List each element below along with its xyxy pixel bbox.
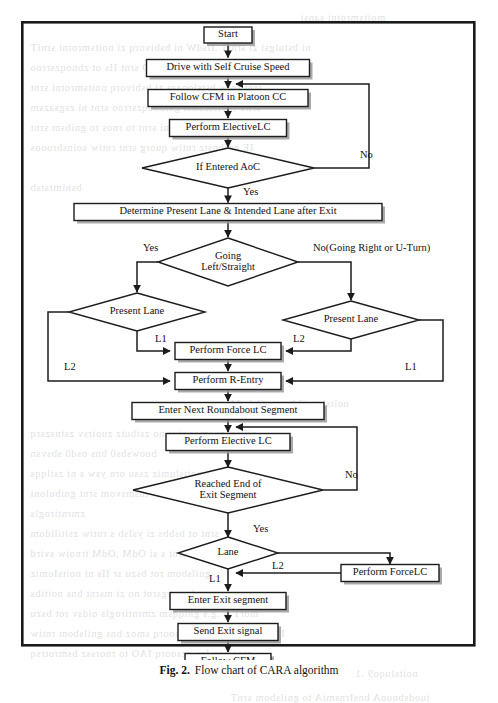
node-label: Lane <box>218 546 239 557</box>
node-label: Perform R-Entry <box>193 374 265 385</box>
figure-caption: Fig. 2.Flow chart of CARA algorithm <box>0 664 498 676</box>
node-label: Follow CFM in Platoon CC <box>170 91 287 102</box>
node-label: Enter Exit segment <box>188 594 269 605</box>
node-determine: Determine Present Lane & Intended Lane a… <box>74 204 385 224</box>
node-label: Perform Elective LC <box>184 435 271 446</box>
edge-lane-l2-to-forcelc2 <box>278 553 390 564</box>
edge-label: No <box>360 149 373 160</box>
node-label: Present Lane <box>110 305 165 316</box>
node-label: Present Lane <box>324 313 379 324</box>
node-label: Follow CFM <box>201 655 256 660</box>
node-laneleft: Present Lane <box>69 293 205 331</box>
edge-label: L2 <box>272 560 284 571</box>
node-cruise: Drive with Self Cruise Speed <box>147 60 313 80</box>
node-label: Going <box>215 250 242 261</box>
edge-label: L2 <box>293 333 305 344</box>
node-label: Perform Force LC <box>190 344 267 355</box>
node-followcfm2: Follow CFM <box>185 654 274 661</box>
edge-label: Yes <box>253 523 268 534</box>
node-electivelc1: Perform ElectiveLC <box>170 120 290 140</box>
node-electivelc2: Perform Elective LC <box>166 434 293 454</box>
node-group: StartDrive with Self Cruise SpeedFollow … <box>69 27 442 660</box>
node-going: GoingLeft/Straight <box>158 238 298 286</box>
edge-label: No <box>345 469 358 480</box>
node-label: Determine Present Lane & Intended Lane a… <box>119 205 336 216</box>
edge-label: No(Going Right or U-Turn) <box>313 242 431 254</box>
node-label: Enter Next Roundabout Segment <box>158 404 297 415</box>
node-forcelc1: Perform Force LC <box>175 343 284 363</box>
node-label: Perform ElectiveLC <box>186 121 271 132</box>
node-exitsignal: Send Exit signal <box>178 624 281 644</box>
node-followcfm: Follow CFM in Platoon CC <box>148 90 311 110</box>
edge-label: Yes <box>143 242 158 253</box>
node-label: Perform ForceLC <box>353 566 427 577</box>
node-label: If Entered AoC <box>196 161 260 172</box>
node-forcelc2: Perform ForceLC <box>341 565 442 585</box>
node-label: Left/Straight <box>201 261 255 272</box>
edge-label: L1 <box>155 333 167 344</box>
node-label: Send Exit signal <box>194 625 263 636</box>
node-reached: Reached End ofExit Segment <box>133 467 323 513</box>
caption-text: Flow chart of CARA algorithm <box>195 664 339 676</box>
node-start: Start <box>204 27 255 46</box>
node-nextseg: Enter Next Roundabout Segment <box>132 403 327 423</box>
caption-number: Fig. 2. <box>159 664 189 676</box>
edge-label: Yes <box>243 186 258 197</box>
node-aoc: If Entered AoC <box>142 148 314 188</box>
node-lane: Lane <box>178 537 278 569</box>
node-exitseg: Enter Exit segment <box>170 593 289 613</box>
edge-label: L1 <box>405 361 417 372</box>
node-label: Drive with Self Cruise Speed <box>166 61 290 72</box>
node-label: Start <box>218 28 238 39</box>
edge-going-no-to-laneright <box>298 262 351 300</box>
flowchart-svg: StartDrive with Self Cruise SpeedFollow … <box>0 0 498 660</box>
node-rentry: Perform R-Entry <box>175 373 284 393</box>
node-label: Exit Segment <box>200 489 257 500</box>
edge-label: L1 <box>209 573 221 584</box>
figure-container: StartDrive with Self Cruise SpeedFollow … <box>0 0 498 703</box>
edge-label: L2 <box>64 361 76 372</box>
edge-going-yes-to-laneleft <box>137 262 158 292</box>
node-label: Reached End of <box>194 478 262 489</box>
